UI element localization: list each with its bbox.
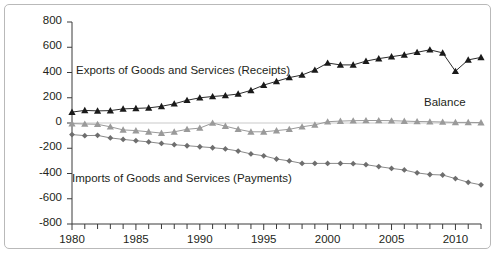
series-marker — [453, 176, 459, 182]
series-marker — [426, 46, 433, 52]
series-marker — [325, 161, 331, 167]
series-marker — [401, 167, 407, 173]
series-marker — [133, 138, 139, 144]
series-marker — [312, 161, 318, 167]
series-marker — [107, 135, 113, 141]
y-axis-tick-label: -200 — [18, 140, 62, 152]
series-balance — [68, 117, 484, 136]
imports-label: Imports of Goods and Services (Payments) — [72, 172, 292, 184]
series-marker — [363, 162, 369, 168]
series-marker — [389, 166, 395, 172]
series-marker — [274, 156, 280, 162]
x-axis-tick-label: 2010 — [432, 233, 478, 245]
series-marker — [222, 146, 228, 152]
y-axis-tick-label: 0 — [18, 115, 62, 127]
series-marker — [81, 107, 88, 113]
series-marker — [197, 144, 203, 150]
x-axis-tick-label: 1990 — [177, 233, 223, 245]
x-axis-tick-label: 1980 — [49, 233, 95, 245]
series-marker — [159, 141, 165, 147]
x-axis-tick-label: 2000 — [305, 233, 351, 245]
series-marker — [311, 66, 318, 72]
series-marker — [120, 137, 126, 143]
x-axis-tick-label: 1985 — [113, 233, 159, 245]
series-marker — [465, 179, 471, 185]
exports-label: Exports of Goods and Services (Receipts) — [76, 64, 290, 76]
series-marker — [261, 153, 267, 159]
series-marker — [184, 143, 190, 149]
series-marker — [247, 87, 254, 93]
y-axis-tick-label: 800 — [18, 14, 62, 26]
series-marker — [427, 172, 433, 178]
series-marker — [286, 158, 292, 164]
y-axis-tick-label: -400 — [18, 166, 62, 178]
series-marker — [478, 182, 484, 188]
series-marker — [210, 145, 216, 151]
series-marker — [338, 161, 344, 167]
y-axis-tick-label: -600 — [18, 191, 62, 203]
series-marker — [477, 54, 484, 60]
y-axis-tick-label: -800 — [18, 216, 62, 228]
series-marker — [82, 133, 88, 139]
series-marker — [298, 71, 305, 77]
x-axis-tick-label: 1995 — [241, 233, 287, 245]
y-axis-tick-label: 400 — [18, 65, 62, 77]
trade-balance-line-chart — [0, 0, 499, 257]
series-marker — [414, 170, 420, 176]
series-marker — [95, 132, 101, 138]
x-axis-tick-label: 2005 — [369, 233, 415, 245]
y-axis-tick-label: 600 — [18, 39, 62, 51]
series-marker — [235, 148, 241, 154]
series-marker — [350, 161, 356, 167]
series-marker — [324, 59, 331, 65]
series-marker — [440, 172, 446, 178]
balance-label: Balance — [424, 96, 466, 108]
series-marker — [299, 161, 305, 167]
series-marker — [171, 142, 177, 148]
series-marker — [69, 132, 75, 138]
series-marker — [146, 139, 152, 145]
series-exports — [68, 46, 484, 115]
y-axis-tick-label: 200 — [18, 90, 62, 102]
series-marker — [248, 151, 254, 157]
series-marker — [196, 124, 203, 130]
series-marker — [376, 164, 382, 170]
